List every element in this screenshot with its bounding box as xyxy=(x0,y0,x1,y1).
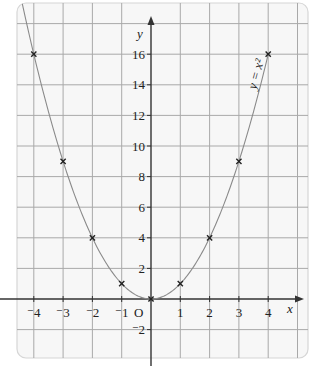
y-tick-label: 6 xyxy=(139,200,146,215)
y-tick-label: 12 xyxy=(132,108,145,123)
x-tick-label: 2 xyxy=(206,305,213,320)
y-tick-label: ⁻2 xyxy=(132,322,146,337)
y-tick-label: 8 xyxy=(139,169,146,184)
y-tick-label: 10 xyxy=(132,139,145,154)
x-axis-label: x xyxy=(286,301,293,316)
y-tick-label: 14 xyxy=(132,77,146,92)
y-tick-label: 16 xyxy=(132,47,146,62)
x-tick-label: 1 xyxy=(177,305,184,320)
x-tick-label: ⁻1 xyxy=(115,305,129,320)
x-tick-label: ⁻4 xyxy=(27,305,41,320)
y-tick-label: 4 xyxy=(139,230,146,245)
x-tick-label: ⁻2 xyxy=(86,305,100,320)
x-tick-label: 4 xyxy=(265,305,272,320)
x-tick-label: 3 xyxy=(236,305,243,320)
x-tick-label: ⁻3 xyxy=(56,305,70,320)
quadratic-graph: ⁻4⁻3⁻2⁻11234 ⁻2246810121416 x y O y = x² xyxy=(0,0,311,366)
y-tick-label: 2 xyxy=(139,261,146,276)
origin-label: O xyxy=(134,305,143,320)
y-axis-label: y xyxy=(135,26,143,41)
